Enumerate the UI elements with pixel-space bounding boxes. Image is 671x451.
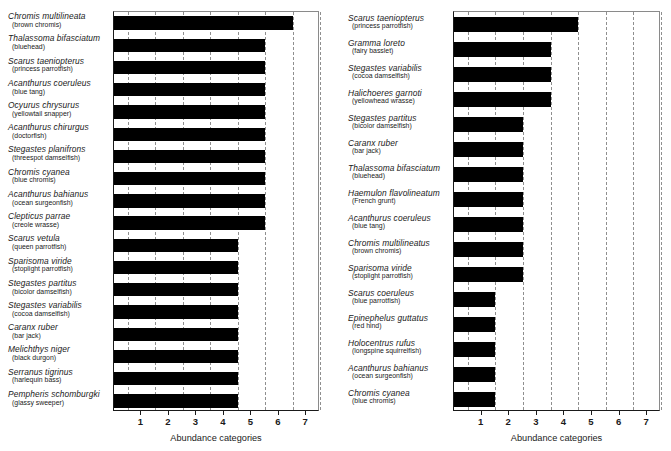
panel-right-category-labels: Scarus taeniopterus(princess parrotfish)… — [348, 0, 452, 451]
axis-tick-label: 5 — [248, 416, 253, 427]
gridline — [578, 12, 579, 410]
species-common-name: (longspine squirrelfish) — [348, 347, 450, 354]
species-scientific-name: Thalassoma bifasciatum — [8, 34, 110, 43]
category-label: Stegastes variabilis(cocoa damselfish) — [8, 301, 110, 317]
bar — [114, 83, 265, 96]
species-common-name: (bar jack) — [8, 332, 110, 339]
bar — [114, 261, 238, 274]
category-label: Clepticus parrae(creole wrasse) — [8, 212, 110, 228]
species-scientific-name: Scarus taeniopterus — [8, 57, 110, 66]
bar — [454, 192, 523, 207]
axis-tick-label: 7 — [303, 416, 308, 427]
bar — [454, 117, 523, 132]
axis-tick-label: 6 — [275, 416, 280, 427]
panel-left-category-labels: Chromis multilineata(brown chromis)Thala… — [8, 0, 112, 451]
species-common-name: (cocoa damselfish) — [8, 310, 110, 317]
gridline — [551, 12, 552, 410]
species-scientific-name: Sparisoma viride — [348, 264, 450, 273]
species-common-name: (stoplight parrotfish) — [8, 265, 110, 272]
panel-right: Scarus taeniopterus(princess parrotfish)… — [340, 0, 671, 451]
axis-tick-label: 4 — [220, 416, 225, 427]
species-common-name: (brown chromis) — [8, 21, 110, 28]
gridline — [661, 12, 662, 410]
bar — [114, 39, 265, 52]
category-label: Stegastes partitus(bicolor damselfish) — [8, 279, 110, 295]
category-label: Acanthurus bahianus(ocean surgeonfish) — [348, 364, 450, 380]
bar — [454, 142, 523, 157]
bar — [114, 194, 265, 207]
species-scientific-name: Stegastes partitus — [8, 279, 110, 288]
category-label: Acanthurus bahianus(ocean surgeonfish) — [8, 190, 110, 206]
species-scientific-name: Chromis multilineatus — [348, 239, 450, 248]
bar — [114, 350, 238, 363]
axis-tick — [223, 411, 224, 415]
bar — [454, 342, 495, 357]
panel-left-x-axis: Abundance categories 1234567 — [113, 411, 319, 451]
species-common-name: (cocoa damselfish) — [348, 72, 450, 79]
species-common-name: (yellowhead wrasse) — [348, 97, 450, 104]
axis-tick-label: 3 — [533, 416, 538, 427]
bar — [454, 242, 523, 257]
species-scientific-name: Gramma loreto — [348, 39, 450, 48]
species-common-name: (yellowtail snapper) — [8, 110, 110, 117]
category-label: Thalassoma bifasciatum(bluehead) — [348, 164, 450, 180]
species-common-name: (blue tang) — [348, 222, 450, 229]
species-common-name: (creole wrasse) — [8, 221, 110, 228]
axis-tick — [536, 411, 537, 415]
axis-tick — [619, 411, 620, 415]
bar — [114, 328, 238, 341]
species-common-name: (ocean surgeonfish) — [348, 372, 450, 379]
species-common-name: (blue chromis) — [8, 176, 110, 183]
panel-left: Chromis multilineata(brown chromis)Thala… — [0, 0, 340, 451]
species-common-name: (ocean surgeonfish) — [8, 199, 110, 206]
category-label: Caranx ruber(bar jack) — [348, 139, 450, 155]
panel-right-axis-title: Abundance categories — [453, 433, 660, 443]
category-label: Chromis multilineata(brown chromis) — [8, 12, 110, 28]
species-scientific-name: Chromis cyanea — [348, 389, 450, 398]
species-scientific-name: Caranx ruber — [8, 323, 110, 332]
bar — [114, 61, 265, 74]
category-label: Caranx ruber(bar jack) — [8, 323, 110, 339]
category-label: Halichoeres garnoti(yellowhead wrasse) — [348, 89, 450, 105]
species-scientific-name: Caranx ruber — [348, 139, 450, 148]
bar — [114, 172, 265, 185]
bar — [454, 67, 551, 82]
species-common-name: (stoplight parrotfish) — [348, 272, 450, 279]
category-label: Sparisoma viride(stoplight parrotfish) — [348, 264, 450, 280]
species-common-name: (French grunt) — [348, 197, 450, 204]
bar — [114, 372, 238, 385]
species-common-name: (bluehead) — [8, 43, 110, 50]
bar — [114, 216, 265, 229]
panel-right-plot-area — [453, 11, 660, 411]
category-label: Ocyurus chrysurus(yellowtail snapper) — [8, 101, 110, 117]
species-scientific-name: Pempheris schomburgki — [8, 390, 110, 399]
axis-tick — [591, 411, 592, 415]
category-label: Stegastes planifrons(threespot damselfis… — [8, 145, 110, 161]
category-label: Pempheris schomburgki(glassy sweeper) — [8, 390, 110, 406]
species-scientific-name: Stegastes partitus — [348, 114, 450, 123]
species-common-name: (glassy sweeper) — [8, 399, 110, 406]
bar — [454, 42, 551, 57]
panel-left-axis-title: Abundance categories — [113, 433, 319, 443]
bar — [114, 128, 265, 141]
bar — [454, 217, 523, 232]
category-label: Melichthys niger(black durgon) — [8, 345, 110, 361]
category-label: Acanthurus chirurgus(doctorfish) — [8, 123, 110, 139]
category-label: Gramma loreto(fairy basslet) — [348, 39, 450, 55]
category-label: Scarus taeniopterus(princess parrotfish) — [8, 57, 110, 73]
bar — [114, 239, 238, 252]
species-scientific-name: Scarus taeniopterus — [348, 14, 450, 23]
bar — [454, 17, 578, 32]
species-scientific-name: Haemulon flavolineatum — [348, 189, 450, 198]
bar — [454, 367, 495, 382]
axis-tick — [508, 411, 509, 415]
axis-tick-label: 4 — [561, 416, 566, 427]
species-scientific-name: Acanthurus coeruleus — [8, 79, 110, 88]
category-label: Serranus tigrinus(harlequin bass) — [8, 368, 110, 384]
bar — [114, 16, 293, 29]
axis-tick-label: 5 — [588, 416, 593, 427]
category-label: Haemulon flavolineatum(French grunt) — [348, 189, 450, 205]
species-scientific-name: Scarus vetula — [8, 234, 110, 243]
species-scientific-name: Chromis cyanea — [8, 168, 110, 177]
axis-tick-label: 3 — [193, 416, 198, 427]
